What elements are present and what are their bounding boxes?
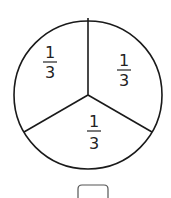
fraction-top-left: 1 3 bbox=[43, 43, 57, 82]
answer-box[interactable] bbox=[78, 185, 108, 198]
denominator: 3 bbox=[119, 71, 129, 90]
denominator: 3 bbox=[45, 63, 55, 82]
divider-left bbox=[24, 95, 88, 132]
fraction-circle-diagram: 1 3 1 3 1 3 bbox=[0, 0, 171, 198]
numerator: 1 bbox=[119, 51, 129, 70]
numerator: 1 bbox=[45, 43, 55, 62]
fraction-bottom: 1 3 bbox=[87, 112, 101, 153]
denominator: 3 bbox=[89, 134, 99, 153]
numerator: 1 bbox=[89, 112, 99, 131]
fraction-top-right: 1 3 bbox=[117, 51, 131, 90]
